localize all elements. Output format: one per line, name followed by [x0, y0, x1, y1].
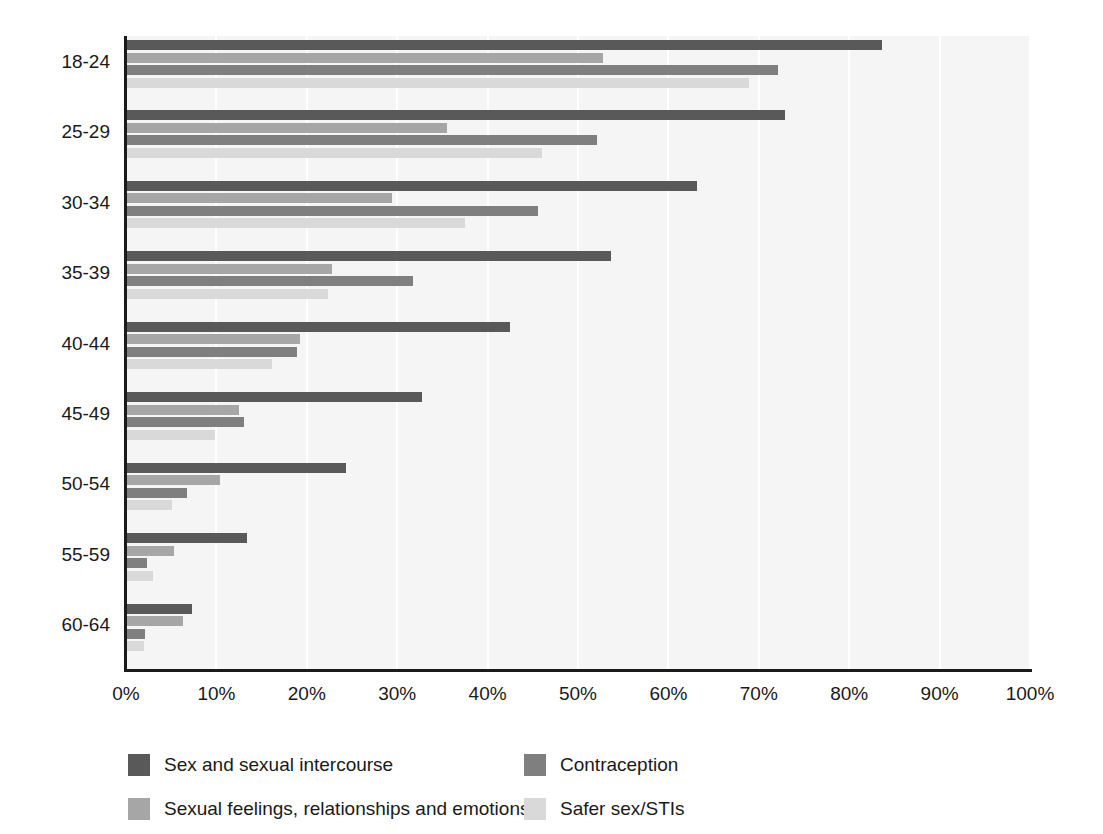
bar-45-49-sex-and-sexual-intercourse	[126, 392, 422, 402]
legend-label: Safer sex/STIs	[560, 798, 685, 820]
bar-group-35-39	[126, 251, 1030, 299]
bar-60-64-contraception	[126, 629, 145, 639]
bar-group-30-34	[126, 181, 1030, 229]
bar-50-54-contraception	[126, 488, 187, 498]
bar-40-44-contraception	[126, 347, 297, 357]
bar-50-54-sexual-feelings-relationships-and-emotions	[126, 475, 220, 485]
bar-45-49-safer-sex-stis	[126, 430, 215, 440]
x-tick-label-90%: 90%	[900, 683, 980, 705]
bar-group-40-44	[126, 322, 1030, 370]
bar-group-18-24	[126, 40, 1030, 88]
bar-30-34-sexual-feelings-relationships-and-emotions	[126, 193, 392, 203]
y-tick-label-45-49: 45-49	[24, 403, 110, 425]
bar-55-59-sex-and-sexual-intercourse	[126, 533, 247, 543]
bar-45-49-sexual-feelings-relationships-and-emotions	[126, 405, 239, 415]
x-tick-label-40%: 40%	[448, 683, 528, 705]
bar-50-54-safer-sex-stis	[126, 500, 172, 510]
legend-item-contraception[interactable]: Contraception	[524, 754, 678, 776]
legend-swatch-icon	[128, 754, 150, 776]
y-tick-label-30-34: 30-34	[24, 192, 110, 214]
bar-18-24-contraception	[126, 65, 778, 75]
legend-label: Sexual feelings, relationships and emoti…	[164, 798, 529, 820]
y-tick-label-25-29: 25-29	[24, 121, 110, 143]
y-tick-label-55-59: 55-59	[24, 544, 110, 566]
legend-item-sex-and-sexual-intercourse[interactable]: Sex and sexual intercourse	[128, 754, 393, 776]
x-tick-label-20%: 20%	[267, 683, 347, 705]
x-tick-label-0%: 0%	[86, 683, 166, 705]
x-tick-label-60%: 60%	[628, 683, 708, 705]
x-tick-label-50%: 50%	[538, 683, 618, 705]
bar-30-34-sex-and-sexual-intercourse	[126, 181, 697, 191]
bar-40-44-sexual-feelings-relationships-and-emotions	[126, 334, 300, 344]
legend-label: Contraception	[560, 754, 678, 776]
bar-30-34-contraception	[126, 206, 538, 216]
bar-35-39-safer-sex-stis	[126, 289, 328, 299]
bar-25-29-contraception	[126, 135, 597, 145]
bar-18-24-sexual-feelings-relationships-and-emotions	[126, 53, 603, 63]
bar-55-59-safer-sex-stis	[126, 571, 153, 581]
chart-legend: Sex and sexual intercourseContraceptionS…	[0, 744, 1103, 834]
legend-label: Sex and sexual intercourse	[164, 754, 393, 776]
bar-18-24-sex-and-sexual-intercourse	[126, 40, 882, 50]
x-tick-label-30%: 30%	[357, 683, 437, 705]
legend-item-sexual-feelings-relationships-and-emotions[interactable]: Sexual feelings, relationships and emoti…	[128, 798, 529, 820]
plot-area	[126, 36, 1030, 670]
bar-group-60-64	[126, 604, 1030, 652]
y-tick-label-60-64: 60-64	[24, 614, 110, 636]
y-axis-line	[124, 36, 127, 670]
y-tick-label-18-24: 18-24	[24, 51, 110, 73]
legend-swatch-icon	[524, 798, 546, 820]
x-tick-label-70%: 70%	[719, 683, 799, 705]
legend-swatch-icon	[128, 798, 150, 820]
bar-35-39-sex-and-sexual-intercourse	[126, 251, 611, 261]
x-axis-line	[124, 669, 1032, 672]
bar-18-24-safer-sex-stis	[126, 78, 749, 88]
bar-35-39-sexual-feelings-relationships-and-emotions	[126, 264, 332, 274]
bar-50-54-sex-and-sexual-intercourse	[126, 463, 346, 473]
grouped-bar-chart: 18-2425-2930-3435-3940-4445-4950-5455-59…	[0, 0, 1103, 834]
bar-40-44-safer-sex-stis	[126, 359, 272, 369]
bar-60-64-sexual-feelings-relationships-and-emotions	[126, 616, 183, 626]
bar-group-45-49	[126, 392, 1030, 440]
y-tick-label-40-44: 40-44	[24, 333, 110, 355]
legend-item-safer-sex-stis[interactable]: Safer sex/STIs	[524, 798, 685, 820]
x-tick-label-10%: 10%	[176, 683, 256, 705]
legend-swatch-icon	[524, 754, 546, 776]
bar-25-29-safer-sex-stis	[126, 148, 542, 158]
bar-25-29-sexual-feelings-relationships-and-emotions	[126, 123, 447, 133]
bar-35-39-contraception	[126, 276, 413, 286]
bar-group-55-59	[126, 533, 1030, 581]
y-tick-label-50-54: 50-54	[24, 473, 110, 495]
bar-45-49-contraception	[126, 417, 244, 427]
x-tick-label-80%: 80%	[809, 683, 889, 705]
bar-60-64-sex-and-sexual-intercourse	[126, 604, 192, 614]
bar-55-59-sexual-feelings-relationships-and-emotions	[126, 546, 174, 556]
bar-60-64-safer-sex-stis	[126, 641, 144, 651]
bar-group-25-29	[126, 110, 1030, 158]
y-tick-label-35-39: 35-39	[24, 262, 110, 284]
x-tick-label-100%: 100%	[990, 683, 1070, 705]
bar-55-59-contraception	[126, 558, 147, 568]
bar-40-44-sex-and-sexual-intercourse	[126, 322, 510, 332]
bar-group-50-54	[126, 463, 1030, 511]
bar-30-34-safer-sex-stis	[126, 218, 465, 228]
bar-25-29-sex-and-sexual-intercourse	[126, 110, 785, 120]
